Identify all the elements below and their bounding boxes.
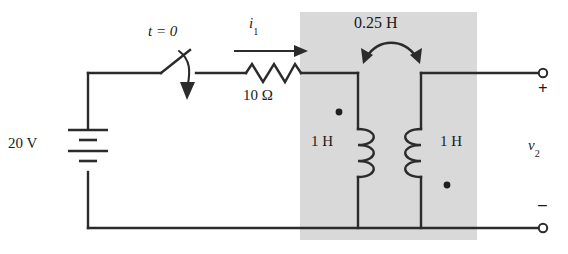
current-label: i1 [249,16,258,34]
circuit-schematic-canvas [0,0,568,254]
terminal-positive[interactable] [539,69,547,77]
switch-time-label: t = 0 [148,24,177,39]
current-subscript: 1 [253,26,258,37]
resistor-value-label: 10 Ω [243,88,273,103]
mutual-inductance-label: 0.25 H [354,15,398,31]
resistor-zigzag [246,64,301,82]
battery-plates [68,130,108,161]
coupled-region-shading [300,12,477,240]
switch-actuation-arc [179,51,189,84]
positive-terminal-label: + [538,80,548,97]
output-voltage-label: v2 [528,138,540,156]
terminal-negative[interactable] [539,224,547,232]
polarity-dot-secondary [444,182,451,189]
circuit-diagram: t = 0 i1 10 Ω 0.25 H 20 V 1 H 1 H v2 + − [0,0,568,254]
inductor-primary-value-label: 1 H [311,134,333,149]
switch-time-variable: t = 0 [148,23,177,39]
switch-blade [161,50,190,73]
output-voltage-subscript: 2 [535,148,540,159]
inductor-secondary-value-label: 1 H [440,134,462,149]
output-voltage-symbol: v [528,137,535,153]
polarity-dot-primary [336,109,343,116]
source-value-label: 20 V [8,136,37,151]
negative-terminal-label: − [537,196,548,215]
